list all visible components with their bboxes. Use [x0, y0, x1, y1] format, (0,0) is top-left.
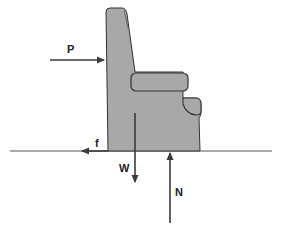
force-f-label: f [95, 137, 99, 149]
armrest [131, 73, 188, 91]
force-w-label: W [119, 162, 130, 174]
force-p-label: P [67, 43, 74, 55]
armchair [106, 8, 201, 151]
force-n-label: N [175, 186, 183, 198]
free-body-diagram: P f W N [0, 0, 281, 231]
